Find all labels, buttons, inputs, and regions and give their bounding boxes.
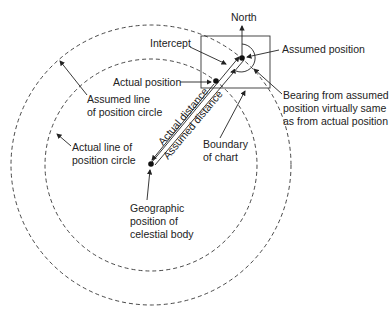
boundary-label-2: of chart <box>203 151 238 163</box>
celestial-navigation-diagram: North Intercept Assumed position Actual … <box>0 0 392 318</box>
boundary-label-1: Boundary <box>203 138 249 150</box>
geo-label-3: celestial body <box>130 228 194 240</box>
bearing-pointer <box>254 69 282 94</box>
boundary-pointer <box>220 91 245 138</box>
geo-pointer <box>147 170 150 200</box>
north-label: North <box>231 11 257 23</box>
assumed-lop-label-1: Assumed line <box>87 93 150 105</box>
assumed-position-dot <box>239 55 245 61</box>
actual-lop-pointer <box>57 134 71 146</box>
intercept-pointer <box>190 47 226 64</box>
assumed-lop-label-2: of position circle <box>87 106 162 118</box>
actual-lop-label-2: position circle <box>72 154 136 166</box>
geographic-position-dot <box>148 161 154 167</box>
actual-position-label: Actual position <box>113 76 181 88</box>
geo-label-1: Geographic <box>130 202 184 214</box>
bearing-label-2: position virtually same <box>283 102 386 114</box>
assumed-position-label: Assumed position <box>282 43 365 55</box>
geo-label-2: position of <box>130 215 178 227</box>
chart-boundary <box>201 36 270 88</box>
bearing-label-1: Bearing from assumed <box>283 89 389 101</box>
actual-position-dot <box>213 78 219 84</box>
intercept-label: Intercept <box>150 37 191 49</box>
actual-lop-label-1: Actual line of <box>72 141 132 153</box>
assumed-position-pointer <box>247 50 279 57</box>
bearing-label-3: as from actual position <box>283 115 388 127</box>
assumed-lop-pointer <box>60 61 87 95</box>
